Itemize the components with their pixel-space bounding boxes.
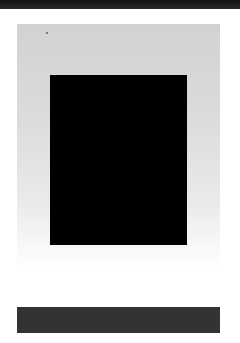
document-page: [0, 0, 240, 343]
scan-speck: [46, 32, 48, 34]
footer-bar: [17, 307, 220, 333]
figure-caption: [50, 75, 51, 76]
header-bar: [0, 0, 240, 9]
figure-image: [50, 75, 187, 245]
